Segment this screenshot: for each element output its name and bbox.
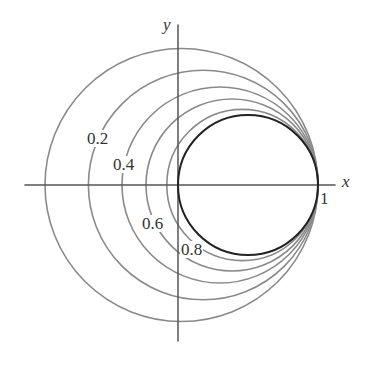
level-label-0.4: 0.4 <box>112 156 135 173</box>
x-tick-label-1: 1 <box>320 190 329 207</box>
level-label-0.2: 0.2 <box>86 130 109 147</box>
level-label-0.6: 0.6 <box>141 215 164 232</box>
y-axis-label: y <box>163 16 171 33</box>
x-axis-label: x <box>342 173 350 190</box>
level-label-0.8: 0.8 <box>180 241 203 258</box>
diagram-canvas <box>0 0 380 366</box>
level-curve-diagram: 0.2 0.4 0.6 0.8 y x 1 <box>0 0 380 366</box>
